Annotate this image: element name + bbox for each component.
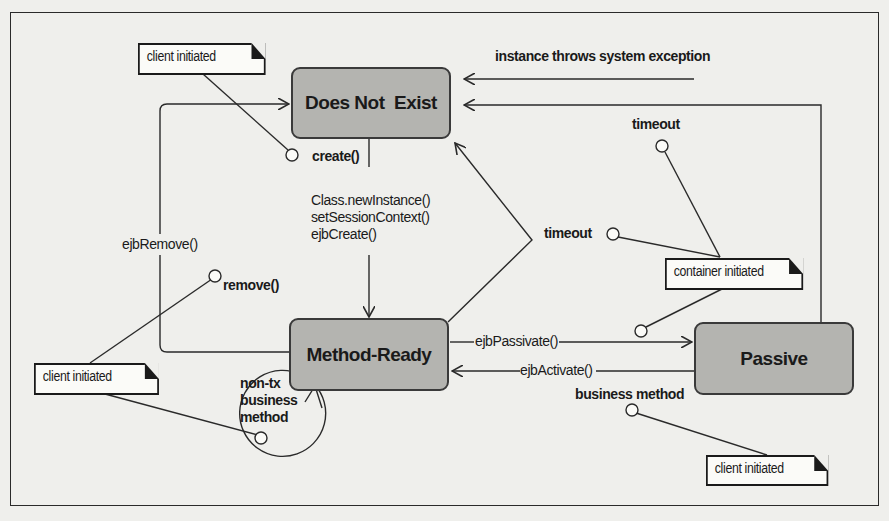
ejb-activate-label: ejbActivate()	[520, 362, 593, 378]
system-exception-label: instance throws system exception	[495, 48, 710, 64]
create-event-icon	[286, 149, 298, 161]
note-text: container initiated	[674, 263, 764, 279]
state-does-not-exist: Does Not Exist	[291, 67, 451, 139]
note-client-initiated-top: client initiated	[138, 43, 266, 75]
create-label: create()	[312, 148, 359, 164]
action-set-session-context: setSessionContext()	[311, 209, 430, 226]
note-text: client initiated	[43, 368, 112, 384]
ejb-remove-arrow	[160, 104, 289, 234]
ejb-remove-label: ejbRemove()	[122, 236, 198, 252]
business-method-label: business method	[575, 386, 684, 402]
business-method-connector	[636, 413, 767, 455]
note-text: client initiated	[715, 460, 784, 476]
method-ready-timeout-arrow	[448, 143, 532, 322]
note-fold-icon	[145, 363, 159, 379]
non-tx-business-method-label: non-tx business method	[240, 375, 298, 426]
ejb-passivate-label: ejbPassivate()	[475, 333, 558, 349]
note-text: client initiated	[147, 48, 216, 64]
state-diagram: Does Not Exist Method-Ready Passive clie…	[0, 0, 889, 521]
note-container-initiated: container initiated	[665, 258, 803, 290]
remove-note-connector	[90, 279, 212, 363]
state-label: Method-Ready	[307, 344, 432, 366]
create-note-connector	[203, 74, 288, 150]
state-label: Does Not Exist	[305, 92, 437, 114]
passivate-event-icon	[635, 325, 647, 337]
ejb-remove-line-lower	[160, 255, 290, 352]
note-fold-icon	[789, 258, 803, 274]
timeout-top-label: timeout	[632, 116, 680, 132]
timeout-top-connector	[665, 152, 720, 257]
nontx-event-icon	[255, 432, 267, 444]
action-ejb-create: ejbCreate()	[311, 226, 430, 243]
non-tx-line-2: business	[240, 392, 298, 409]
state-passive: Passive	[694, 322, 854, 395]
note-client-initiated-bottom-right: client initiated	[706, 455, 828, 486]
timeout-top-event-icon	[656, 140, 668, 152]
remove-label: remove()	[223, 277, 279, 293]
action-new-instance: Class.newInstance()	[311, 192, 430, 209]
timeout-mid-connector	[618, 237, 720, 257]
state-label: Passive	[740, 348, 807, 370]
nontx-note-connector	[105, 394, 258, 435]
timeout-mid-event-icon	[607, 228, 619, 240]
non-tx-line-3: method	[240, 409, 298, 426]
note-fold-icon	[814, 455, 828, 471]
remove-event-icon	[209, 270, 221, 282]
business-method-event-icon	[626, 404, 638, 416]
timeout-mid-label: timeout	[544, 225, 592, 241]
state-method-ready: Method-Ready	[289, 318, 449, 391]
create-actions-label: Class.newInstance() setSessionContext() …	[311, 192, 430, 243]
note-client-initiated-left: client initiated	[34, 363, 159, 395]
note-fold-icon	[252, 43, 266, 59]
non-tx-line-1: non-tx	[240, 375, 298, 392]
